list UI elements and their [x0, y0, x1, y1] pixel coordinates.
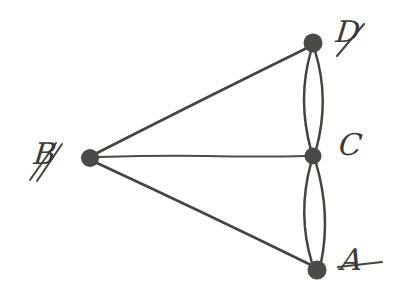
- node-d[interactable]: [304, 34, 323, 53]
- graph-diagram: B D C A: [0, 0, 417, 301]
- vertex-label-c: C: [337, 130, 363, 160]
- edge-b-a: [97, 163, 311, 265]
- node-b[interactable]: [81, 149, 99, 167]
- vertex-label-a: A: [339, 245, 364, 275]
- edge-b-d: [97, 48, 307, 153]
- vertex-label-b: B: [32, 139, 57, 169]
- edge-d-c-left: [304, 51, 311, 150]
- edge-d-c-right: [315, 51, 323, 150]
- edge-c-a-right: [316, 163, 325, 263]
- edge-layer: [97, 48, 325, 265]
- edge-c-a-left: [304, 163, 312, 263]
- vertex-label-d: D: [334, 17, 361, 47]
- node-c[interactable]: [305, 148, 322, 165]
- node-a[interactable]: [308, 261, 327, 280]
- label-flourish-layer: [30, 24, 382, 267]
- edge-b-c: [99, 156, 306, 157]
